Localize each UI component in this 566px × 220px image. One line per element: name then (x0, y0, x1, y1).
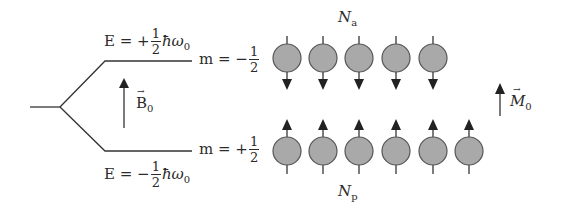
m-prefix: m = + (199, 140, 248, 158)
m0-magnetization-arrow-icon (495, 83, 505, 116)
fraction-numerator: 1 (151, 27, 161, 42)
b0-field-label: → B 0 (136, 96, 153, 114)
spin-down-icon (419, 36, 447, 90)
energy-prefix: E = − (104, 165, 150, 183)
energy-level-lines (30, 61, 192, 151)
upper-spin-row (273, 36, 447, 90)
m-prefix: m = − (199, 50, 248, 68)
fraction-numerator: 1 (151, 160, 161, 175)
spin-up-icon (455, 119, 483, 174)
magnetization-subscript: 0 (525, 101, 531, 112)
fraction-numerator: 1 (249, 135, 259, 150)
spin-down-icon (273, 36, 301, 90)
population-subscript: a (351, 17, 357, 28)
m-fraction: 12 (249, 135, 259, 164)
population-symbol: N (338, 8, 351, 26)
energy-fraction: 12 (151, 160, 161, 189)
m-fraction: 12 (249, 45, 259, 74)
spin-up-icon (345, 119, 373, 174)
diagram-canvas (0, 0, 566, 220)
upper-population-label: Na (338, 10, 357, 28)
fraction-denominator: 2 (249, 60, 259, 74)
lower-population-label: Np (338, 184, 358, 202)
energy-fraction: 12 (151, 27, 161, 56)
energy-symbol: ħω (162, 32, 184, 50)
population-symbol: N (338, 182, 351, 200)
spin-up-icon (419, 119, 447, 174)
fraction-numerator: 1 (249, 45, 259, 60)
energy-prefix: E = + (104, 32, 150, 50)
upper-energy-label: E = +12ħω0 (104, 27, 190, 56)
spin-down-icon (345, 36, 373, 90)
field-subscript: 0 (147, 103, 153, 114)
upper-m-label: m = −12 (199, 45, 260, 74)
lower-spin-row (273, 119, 483, 174)
spin-down-icon (309, 36, 337, 90)
m0-magnetization-label: → M 0 (510, 94, 532, 112)
lower-energy-label: E = −12ħω0 (104, 160, 190, 189)
vector-mark: → (513, 85, 521, 94)
fraction-denominator: 2 (151, 175, 161, 189)
field-symbol: B (136, 94, 147, 112)
lower-m-label: m = +12 (199, 135, 260, 164)
magnetization-symbol: M (510, 92, 525, 110)
population-subscript: p (351, 191, 357, 202)
fraction-denominator: 2 (249, 150, 259, 164)
spin-up-icon (273, 119, 301, 174)
fraction-denominator: 2 (151, 42, 161, 56)
spin-up-icon (309, 119, 337, 174)
energy-symbol: ħω (162, 165, 184, 183)
vector-mark: → (137, 87, 145, 96)
energy-subscript: 0 (184, 174, 190, 185)
b0-field-arrow-icon (119, 78, 129, 128)
spin-up-icon (382, 119, 410, 174)
energy-subscript: 0 (184, 41, 190, 52)
spin-down-icon (382, 36, 410, 90)
lower-level-line (60, 107, 192, 151)
